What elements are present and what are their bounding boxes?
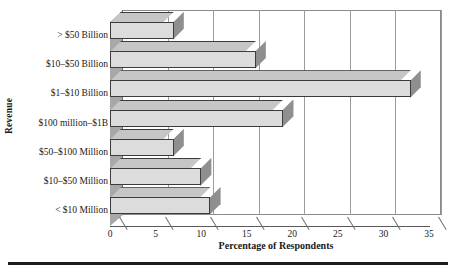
bar-front-face: [110, 139, 174, 156]
y-tick-label-0: > $50 Billion: [12, 30, 108, 40]
bar-top-edge: [110, 129, 174, 140]
x-tick-label-20: 20: [288, 229, 298, 239]
x-tick-label-0: 0: [108, 229, 113, 239]
y-tick-label-1: $10–$50 Billion: [12, 59, 108, 69]
bar-front-face: [110, 51, 256, 68]
bar-5: [110, 158, 201, 175]
x-axis-line: [110, 226, 430, 227]
bar-1: [110, 41, 256, 58]
bar-front-face: [110, 22, 174, 39]
x-tick-label-30: 30: [379, 229, 389, 239]
bar-top-edge: [110, 70, 411, 81]
x-tick-label-15: 15: [242, 229, 252, 239]
x-tick-label-5: 5: [153, 229, 158, 239]
y-tick-label-2: $1–$10 Billion: [12, 88, 108, 98]
gridline-35: [441, 10, 442, 215]
bar-6: [110, 187, 210, 204]
bar-top-edge: [110, 100, 283, 111]
bar-top-edge: [110, 12, 174, 23]
bar-front-face: [110, 110, 283, 127]
x-tick-label-10: 10: [196, 229, 206, 239]
y-tick-label-5: $10–$50 Million: [12, 176, 108, 186]
gridline-20: [304, 10, 305, 215]
bar-front-face: [110, 168, 201, 185]
bar-front-face: [110, 197, 210, 214]
x-tick-mark-35: [438, 217, 447, 230]
y-tick-label-6: < $10 Million: [12, 205, 108, 215]
bar-top-edge: [110, 41, 256, 52]
bar-front-face: [110, 80, 411, 97]
bar-0: [110, 12, 174, 29]
y-tick-label-3: $100 million–$1B: [12, 118, 108, 128]
bar-top-edge: [110, 187, 210, 198]
bar-top-edge: [110, 158, 201, 169]
x-axis-title: Percentage of Respondents: [110, 240, 442, 251]
bar-2: [110, 70, 411, 87]
bottom-rule: [8, 262, 448, 265]
bar-3: [110, 100, 283, 117]
x-tick-label-25: 25: [333, 229, 343, 239]
y-axis-tick-labels: > $50 Billion$10–$50 Billion$1–$10 Billi…: [14, 14, 110, 226]
plot-area: 05101520253035: [110, 10, 442, 235]
y-axis-title-text: Revenue: [4, 98, 14, 134]
bar-chart-figure: Revenue > $50 Billion$10–$50 Billion$1–$…: [0, 0, 456, 270]
x-tick-label-35: 35: [424, 229, 434, 239]
gridline-25: [350, 10, 351, 215]
y-tick-label-4: $50–$100 Million: [12, 147, 108, 157]
bar-4: [110, 129, 174, 146]
gridline-30: [395, 10, 396, 215]
